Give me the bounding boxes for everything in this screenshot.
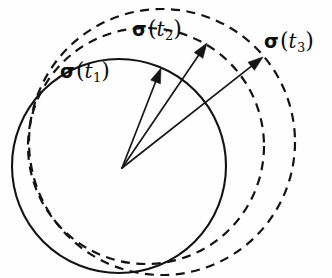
- close-paren-t1: ): [101, 58, 110, 83]
- close-paren-t3: ): [305, 28, 314, 53]
- vector-sigma-t2: [122, 43, 207, 168]
- open-paren-t1: (: [76, 58, 85, 83]
- label-sigma-t1: σ(t1): [60, 60, 110, 84]
- vector-sigma-t1-arrowhead: [151, 68, 161, 84]
- circle-sigma-t1: [12, 59, 226, 273]
- sigma-glyph-t1: σ: [60, 60, 75, 82]
- t-variable-t1: t: [85, 59, 93, 83]
- open-paren-t3: (: [280, 28, 289, 53]
- close-paren-t2: ): [173, 16, 182, 41]
- t-variable-t2: t: [157, 17, 165, 41]
- sigma-glyph-t2: σ: [132, 18, 147, 40]
- open-paren-t2: (: [148, 16, 157, 41]
- t-variable-t3: t: [289, 29, 297, 53]
- figure-container: σ(t1) σ(t2) σ(t3): [0, 0, 332, 278]
- vector-sigma-t2-shaft: [122, 52, 201, 168]
- label-sigma-t2: σ(t2): [132, 18, 182, 42]
- vector-sigma-t3-arrowhead: [248, 57, 263, 70]
- sigma-glyph-t3: σ: [264, 30, 279, 52]
- label-sigma-t3: σ(t3): [264, 30, 314, 54]
- vector-sigma-t2-arrowhead: [194, 43, 207, 58]
